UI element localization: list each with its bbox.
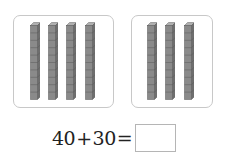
ten-rod-icon: [165, 22, 175, 100]
ten-rod-icon: [184, 22, 194, 100]
plus-operator: +: [76, 127, 91, 149]
answer-input-box[interactable]: [135, 124, 176, 152]
left-operand: 40: [52, 127, 75, 149]
ten-rod-icon: [147, 22, 157, 100]
ten-rod-icon: [66, 22, 76, 100]
ten-rod-icon: [48, 22, 58, 100]
right-operand: 30: [93, 127, 116, 149]
equation: 40 + 30 =: [52, 123, 176, 153]
tens-panel-left: [13, 15, 114, 108]
ten-rod-icon: [85, 22, 95, 100]
ten-rod-icon: [30, 22, 40, 100]
equals-sign: =: [117, 127, 132, 149]
